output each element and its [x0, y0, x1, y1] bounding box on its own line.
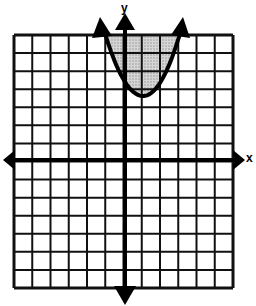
coordinate-graph: [0, 0, 256, 306]
y-axis-label: y: [121, 2, 128, 14]
x-axis-left-arrow-icon: [3, 150, 15, 170]
parabola-left-arrow-icon: [92, 17, 112, 38]
y-axis-up-arrow-icon: [115, 13, 135, 30]
parabola-right-arrow-icon: [171, 17, 190, 38]
y-axis-down-arrow-icon: [114, 286, 136, 305]
x-axis-label: x: [246, 152, 253, 164]
x-axis-right-arrow-icon: [233, 150, 245, 170]
